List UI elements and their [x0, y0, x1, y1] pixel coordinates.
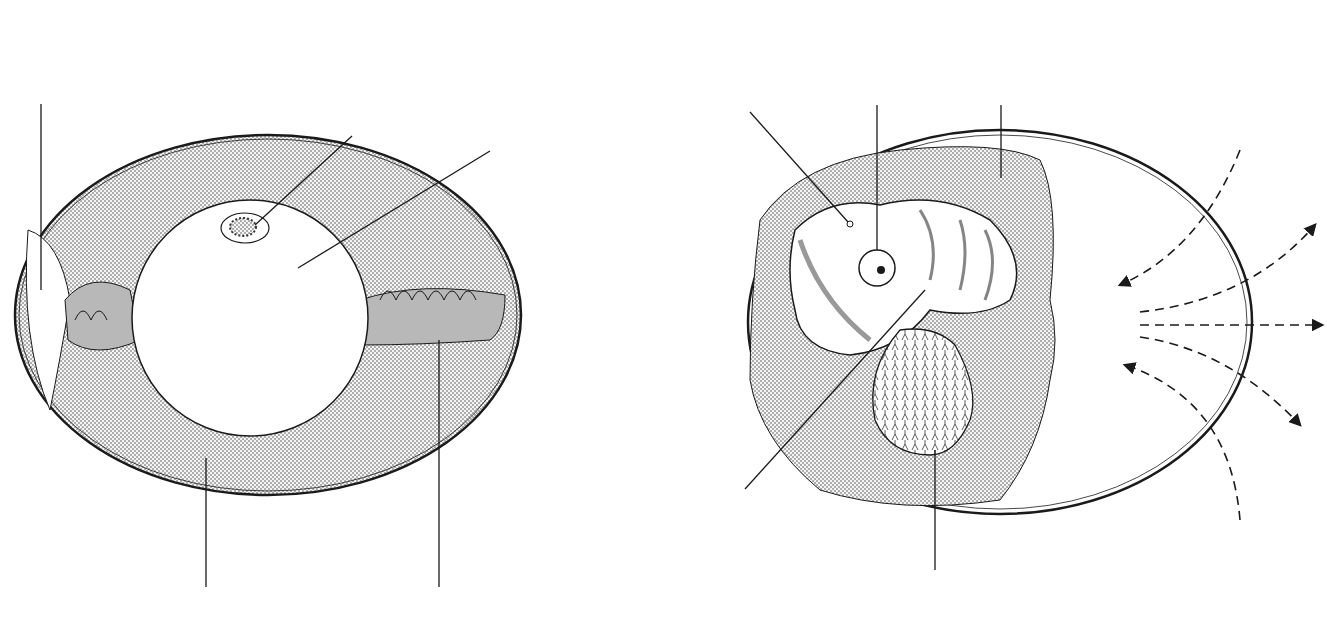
unfertilised-egg-diagram: [15, 104, 521, 587]
developing-embryo-diagram: [745, 105, 1322, 570]
left-chalaza: [65, 282, 140, 350]
eye: [859, 250, 895, 286]
diagram-canvas: [0, 0, 1327, 636]
